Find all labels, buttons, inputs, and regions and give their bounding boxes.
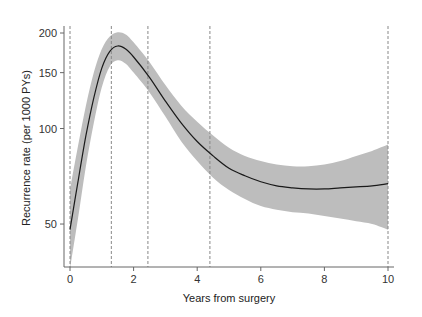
y-tick-label: 50: [45, 218, 57, 230]
recurrence-rate-chart: 0246810 50100150200 Years from surgery R…: [0, 0, 422, 317]
x-axis-title: Years from surgery: [183, 292, 276, 304]
x-tick-label: 0: [67, 273, 73, 285]
x-tick-label: 10: [382, 273, 394, 285]
x-tick-label: 6: [258, 273, 264, 285]
x-tick-label: 4: [194, 273, 200, 285]
y-tick-label: 200: [39, 27, 57, 39]
y-axis-title: Recurrence rate (per 1000 PYs): [20, 70, 32, 226]
y-tick-label: 150: [39, 67, 57, 79]
x-tick-label: 8: [321, 273, 327, 285]
y-tick-label: 100: [39, 123, 57, 135]
x-tick-label: 2: [131, 273, 137, 285]
